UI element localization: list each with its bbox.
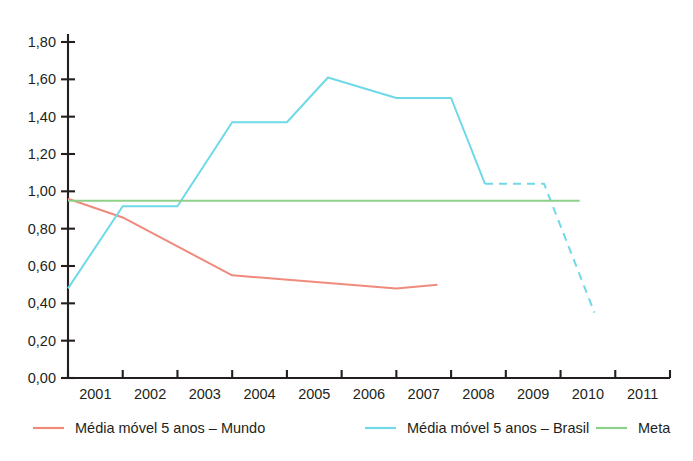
y-tick-label: 0,20 bbox=[28, 333, 56, 349]
series-layer bbox=[68, 77, 594, 312]
chart-figure: 0,000,200,400,600,801,001,201,401,601,80… bbox=[0, 0, 693, 461]
x-tick-label: 2011 bbox=[627, 386, 658, 402]
x-axis: 2001200220032004200520062007200820092010… bbox=[68, 370, 670, 402]
y-tick-label: 0,40 bbox=[28, 295, 56, 311]
line-chart-canvas: 0,000,200,400,600,801,001,201,401,601,80… bbox=[0, 0, 693, 461]
x-tick-label: 2006 bbox=[353, 386, 385, 402]
y-tick-label: 0,80 bbox=[28, 221, 56, 237]
x-tick-label: 2010 bbox=[572, 386, 604, 402]
legend-label: Média móvel 5 anos – Mundo bbox=[75, 420, 265, 436]
x-tick-label: 2008 bbox=[462, 386, 494, 402]
y-tick-label: 1,60 bbox=[28, 71, 56, 87]
legend-label: Média móvel 5 anos – Brasil bbox=[407, 420, 589, 436]
legend-label: Meta bbox=[638, 420, 671, 436]
y-axis: 0,000,200,400,600,801,001,201,401,601,80 bbox=[28, 34, 75, 386]
y-tick-label: 0,60 bbox=[28, 258, 56, 274]
x-tick-label: 2005 bbox=[298, 386, 330, 402]
series-line-mundo bbox=[68, 199, 437, 289]
chart-legend: Média móvel 5 anos – MundoMédia móvel 5 … bbox=[33, 420, 671, 436]
x-tick-label: 2004 bbox=[243, 386, 275, 402]
y-tick-label: 0,00 bbox=[28, 370, 56, 386]
x-tick-label: 2003 bbox=[189, 386, 221, 402]
y-tick-label: 1,20 bbox=[28, 146, 56, 162]
y-tick-label: 1,40 bbox=[28, 109, 56, 125]
y-tick-label: 1,00 bbox=[28, 183, 56, 199]
x-tick-label: 2007 bbox=[408, 386, 440, 402]
y-tick-label: 1,80 bbox=[28, 34, 56, 50]
x-tick-label: 2001 bbox=[79, 386, 111, 402]
series-line-brasil bbox=[68, 77, 485, 288]
x-tick-label: 2002 bbox=[134, 386, 166, 402]
x-tick-label: 2009 bbox=[517, 386, 549, 402]
series-line-brasil_proj bbox=[485, 184, 594, 313]
